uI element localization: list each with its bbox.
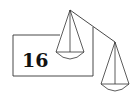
box-number: 16 [22,49,48,71]
number-box: 16 [13,27,93,76]
right-pan [101,42,129,91]
scale-beam [70,10,115,42]
balance-scale-diagram: 16 [0,0,140,101]
